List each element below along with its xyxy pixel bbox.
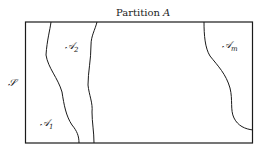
region-label-2: 𝒜2 [65, 40, 79, 54]
partition-curve-2 [88, 22, 97, 143]
set-label: 𝒮 [8, 77, 19, 88]
diagram-title: Partition A [116, 7, 170, 18]
region-label-m: 𝒜m [222, 39, 238, 53]
set-boundary [26, 22, 253, 143]
region-label-1: 𝒜1 [40, 117, 53, 131]
partition-diagram: Partition A 𝒮 𝒜2 𝒜1 𝒜m [0, 0, 266, 151]
